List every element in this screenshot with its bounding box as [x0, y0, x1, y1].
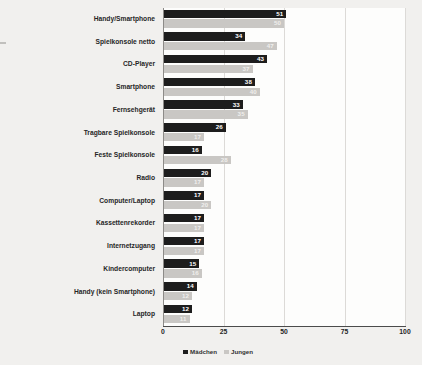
- bar-value-label: 17: [194, 248, 204, 254]
- bar-group: 2017: [163, 167, 405, 190]
- bar-mdchen: 34: [163, 32, 245, 40]
- bar-group: 2617: [163, 122, 405, 145]
- bar-jungen: 47: [163, 42, 277, 50]
- bar-value-label: 16: [192, 147, 202, 153]
- bar-jungen: 28: [163, 156, 231, 164]
- bar-value-label: 17: [194, 192, 204, 198]
- bar-group: 5150: [163, 8, 405, 31]
- bar-mdchen: 43: [163, 55, 267, 63]
- category-label: Computer/Laptop: [99, 198, 155, 205]
- bar-value-label: 43: [257, 56, 267, 62]
- bar-value-label: 12: [182, 306, 192, 312]
- tick-label-0: 0: [161, 329, 165, 336]
- bar-value-label: 38: [245, 79, 255, 85]
- plot-area: 5150344743373840333526171628201717201717…: [163, 8, 405, 326]
- bar-value-label: 26: [216, 124, 226, 130]
- bar-mdchen: 17: [163, 237, 204, 245]
- legend-item-jungen[interactable]: Jungen: [224, 349, 253, 355]
- bar-value-label: 17: [194, 179, 204, 185]
- category-label: Laptop: [133, 311, 155, 318]
- bar-jungen: 17: [163, 247, 204, 255]
- bar-group: 1211: [163, 303, 405, 326]
- bar-jungen: 37: [163, 65, 253, 73]
- bar-mdchen: 33: [163, 100, 243, 108]
- value-axis-line: [163, 8, 164, 326]
- bar-group: 1516: [163, 258, 405, 281]
- category-axis-line: [163, 326, 406, 327]
- bar-jungen: 12: [163, 292, 192, 300]
- bar-value-label: 17: [194, 215, 204, 221]
- bar-value-label: 37: [242, 66, 252, 72]
- tick-label-25: 25: [220, 329, 228, 336]
- legend-swatch-icon: [224, 350, 229, 355]
- category-label: Radio: [136, 175, 155, 182]
- category-label: Feste Spielkonsole: [94, 152, 155, 159]
- bar-mdchen: 12: [163, 305, 192, 313]
- category-axis-labels: Handy/SmartphoneSpielkonsole nettoCD-Pla…: [0, 8, 159, 326]
- legend-item-mdchen[interactable]: Mädchen: [183, 349, 217, 355]
- tick-label-75: 75: [341, 329, 349, 336]
- bar-mdchen: 17: [163, 214, 204, 222]
- bar-value-label: 17: [194, 134, 204, 140]
- category-label: Handy (kein Smartphone): [74, 289, 155, 296]
- bar-jungen: 17: [163, 133, 204, 141]
- bar-group: 1717: [163, 212, 405, 235]
- bar-value-label: 34: [235, 33, 245, 39]
- bar-value-label: 17: [194, 238, 204, 244]
- legend-label: Mädchen: [190, 349, 217, 355]
- bar-value-label: 51: [276, 11, 286, 17]
- category-label: Kassettenrekorder: [96, 220, 155, 227]
- bar-mdchen: 51: [163, 10, 286, 18]
- bar-mdchen: 20: [163, 169, 211, 177]
- category-label: Smartphone: [116, 84, 155, 91]
- tick-label-50: 50: [280, 329, 288, 336]
- category-label: Internetzugang: [107, 243, 155, 250]
- bar-group: 4337: [163, 53, 405, 76]
- bar-value-label: 47: [267, 43, 277, 49]
- bar-jungen: 17: [163, 178, 204, 186]
- bar-mdchen: 15: [163, 259, 199, 267]
- bar-value-label: 11: [180, 316, 190, 322]
- bar-jungen: 11: [163, 315, 190, 323]
- tick-label-100: 100: [399, 329, 410, 336]
- bar-mdchen: 16: [163, 146, 202, 154]
- bar-group: 3447: [163, 31, 405, 54]
- bar-mdchen: 14: [163, 282, 197, 290]
- bar-group: 3335: [163, 99, 405, 122]
- chart-legend: MädchenJungen: [183, 349, 253, 355]
- bar-value-label: 40: [250, 89, 260, 95]
- category-label: Tragbare Spielkonsole: [84, 130, 155, 137]
- bar-jungen: 40: [163, 88, 260, 96]
- category-label: CD-Player: [123, 61, 155, 68]
- bar-value-label: 16: [192, 270, 202, 276]
- bar-mdchen: 17: [163, 191, 204, 199]
- bar-jungen: 50: [163, 19, 284, 27]
- bar-jungen: 16: [163, 269, 202, 277]
- bar-group: 1717: [163, 235, 405, 258]
- bar-mdchen: 26: [163, 123, 226, 131]
- bar-value-label: 12: [182, 293, 192, 299]
- bar-value-label: 20: [201, 202, 211, 208]
- bar-value-label: 50: [274, 20, 284, 26]
- category-label: Handy/Smartphone: [94, 16, 155, 23]
- value-axis-ticks: 0255075100: [163, 329, 406, 341]
- bar-group: 1412: [163, 281, 405, 304]
- bar-value-label: 33: [233, 102, 243, 108]
- bar-group: 1628: [163, 144, 405, 167]
- bar-rows: 5150344743373840333526171628201717201717…: [163, 8, 405, 326]
- bar-value-label: 17: [194, 225, 204, 231]
- bar-jungen: 35: [163, 110, 248, 118]
- bar-mdchen: 38: [163, 78, 255, 86]
- bar-value-label: 28: [221, 157, 231, 163]
- chart-container: Handy/SmartphoneSpielkonsole nettoCD-Pla…: [0, 0, 422, 365]
- bar-value-label: 15: [189, 261, 199, 267]
- bar-jungen: 20: [163, 201, 211, 209]
- bar-group: 1720: [163, 190, 405, 213]
- category-label: Kindercomputer: [103, 266, 155, 273]
- legend-swatch-icon: [183, 350, 188, 355]
- bar-value-label: 14: [187, 283, 197, 289]
- bar-value-label: 20: [201, 170, 211, 176]
- category-label: Fernsehgerät: [113, 107, 155, 114]
- bar-jungen: 17: [163, 224, 204, 232]
- legend-label: Jungen: [231, 349, 253, 355]
